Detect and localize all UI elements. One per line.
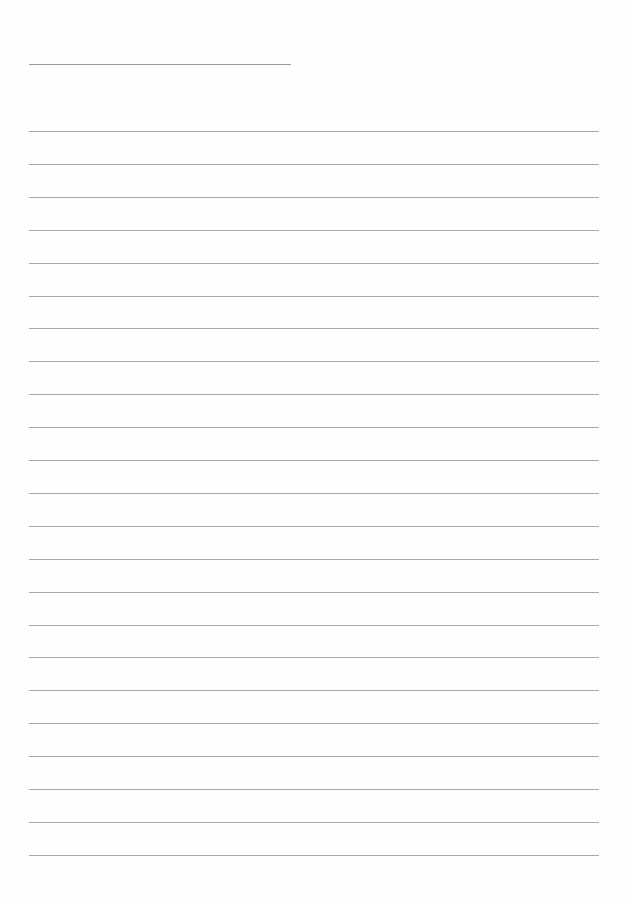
ruled-line: [29, 164, 599, 165]
ruled-line: [29, 723, 599, 724]
ruled-line: [29, 427, 599, 428]
ruled-line: [29, 789, 599, 790]
ruled-line: [29, 296, 599, 297]
lined-paper-page: [0, 0, 626, 900]
ruled-line: [29, 197, 599, 198]
title-line: [29, 64, 291, 65]
ruled-line: [29, 756, 599, 757]
ruled-line: [29, 625, 599, 626]
ruled-line: [29, 263, 599, 264]
ruled-line: [29, 855, 599, 856]
ruled-line: [29, 822, 599, 823]
ruled-line: [29, 657, 599, 658]
ruled-line: [29, 526, 599, 527]
ruled-line: [29, 230, 599, 231]
ruled-line: [29, 361, 599, 362]
ruled-line: [29, 690, 599, 691]
ruled-line: [29, 460, 599, 461]
ruled-line: [29, 592, 599, 593]
ruled-line: [29, 493, 599, 494]
ruled-line: [29, 394, 599, 395]
ruled-line: [29, 328, 599, 329]
ruled-line: [29, 559, 599, 560]
ruled-line: [29, 131, 599, 132]
